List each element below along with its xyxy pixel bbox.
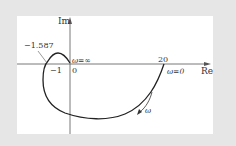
imag-axis-label: Im (58, 17, 70, 26)
nyquist-diagram: Im Re 0 −1 −1.587 20 ω=0 ω=∞ ω (0, 0, 236, 146)
omega-direction-label: ω (145, 107, 151, 115)
crossing-leader-line (38, 51, 47, 63)
imag-axis (68, 17, 72, 134)
omega-infinity-label: ω=∞ (72, 57, 91, 65)
crossing-value-label: −1.587 (24, 42, 54, 50)
origin-label: 0 (72, 67, 77, 75)
real-axis-label: Re (201, 67, 213, 76)
omega-zero-label: ω=0 (167, 68, 184, 76)
start-value-label: 20 (158, 56, 168, 64)
minus-one-label: −1 (50, 67, 62, 75)
